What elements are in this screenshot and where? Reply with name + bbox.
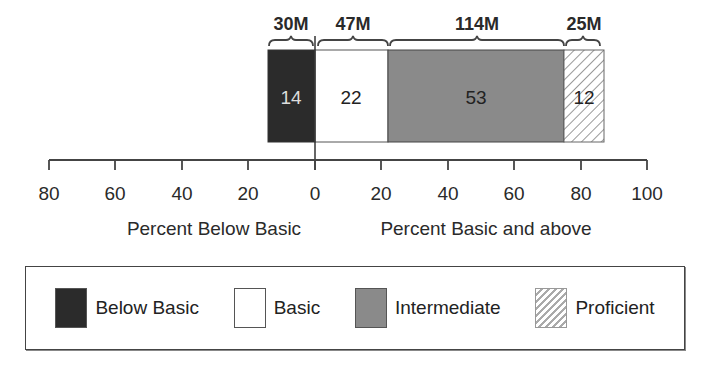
tick-left-20: 20 — [237, 183, 258, 204]
population-label-basic: 47M — [335, 14, 370, 34]
legend-swatch-below-basic — [55, 288, 87, 328]
tick-right-20: 20 — [370, 183, 391, 204]
legend-swatch-proficient — [535, 288, 567, 328]
x-axis-label-left: Percent Below Basic — [127, 218, 301, 239]
legend-item-proficient: Proficient — [535, 288, 654, 328]
tick-right-100: 100 — [631, 183, 663, 204]
tick-right-40: 40 — [437, 183, 458, 204]
legend-label: Below Basic — [95, 297, 199, 319]
legend-label: Proficient — [575, 297, 654, 319]
legend-item-basic: Basic — [234, 288, 320, 328]
legend-swatch-intermediate — [355, 288, 387, 328]
tick-left-40: 40 — [171, 183, 192, 204]
population-label-intermediate: 114M — [455, 14, 499, 34]
legend-item-below-basic: Below Basic — [55, 288, 199, 328]
tick-0: 0 — [310, 183, 321, 204]
tick-left-80: 80 — [38, 183, 59, 204]
legend: Below Basic Basic Intermediate Proficien… — [25, 266, 685, 350]
tick-right-80: 80 — [570, 183, 591, 204]
population-label-proficient: 25M — [566, 14, 601, 34]
legend-item-intermediate: Intermediate — [355, 288, 501, 328]
bar-value-intermediate: 53 — [465, 87, 486, 108]
population-label-below-basic: 30M — [273, 14, 308, 34]
x-axis-label-right: Percent Basic and above — [380, 218, 591, 239]
legend-label: Intermediate — [395, 297, 501, 319]
population-braces — [269, 36, 600, 46]
bar-value-basic: 22 — [340, 87, 361, 108]
x-axis — [49, 160, 647, 170]
bar-value-below-basic: 14 — [280, 87, 302, 108]
legend-label: Basic — [274, 297, 320, 319]
legend-swatch-basic — [234, 288, 266, 328]
tick-right-60: 60 — [503, 183, 524, 204]
tick-left-60: 60 — [104, 183, 125, 204]
bar-value-proficient: 12 — [573, 87, 594, 108]
